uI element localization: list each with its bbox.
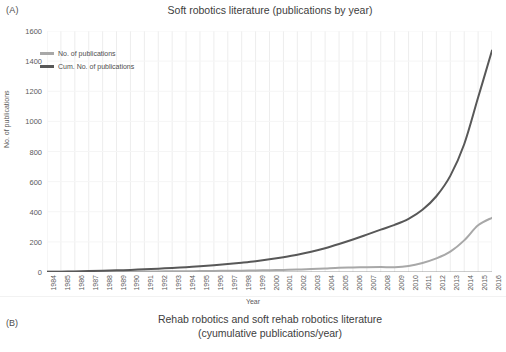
x-tick-label: 2013 <box>453 275 460 291</box>
y-tick-label: 1600 <box>2 27 42 36</box>
x-tick-label: 2010 <box>412 275 419 291</box>
x-tick-label: 1996 <box>217 275 224 291</box>
legend-swatch-cumulative <box>40 65 54 68</box>
x-tick-label: 1991 <box>147 275 154 291</box>
y-tick-label: 1200 <box>2 87 42 96</box>
x-tick-label: 2003 <box>314 275 321 291</box>
x-tick-label: 1985 <box>64 275 71 291</box>
x-tick-label: 1998 <box>245 275 252 291</box>
x-tick-label: 2008 <box>384 275 391 291</box>
x-tick-label: 2015 <box>481 275 488 291</box>
x-tick-label: 2011 <box>425 275 432 290</box>
x-tick-label: 1992 <box>161 275 168 291</box>
x-tick-label: 2016 <box>495 275 502 291</box>
x-tick-label: 1984 <box>50 275 57 291</box>
x-tick-label: 2005 <box>342 275 349 291</box>
x-tick-label: 1993 <box>175 275 182 291</box>
y-tick-label: 1400 <box>2 57 42 66</box>
x-tick-label: 2000 <box>273 275 280 291</box>
x-tick-label: 1990 <box>133 275 140 291</box>
chart-title: Soft robotics literature (publications b… <box>60 4 480 16</box>
x-tick-label: 1994 <box>189 275 196 291</box>
legend-item-cumulative: Cum. No. of publications <box>40 61 134 72</box>
y-tick-label: 0 <box>2 268 42 277</box>
x-tick-label: 1999 <box>259 275 266 291</box>
figure-container: (A) Soft robotics literature (publicatio… <box>0 0 506 352</box>
chart-legend: No. of publications Cum. No. of publicat… <box>40 48 134 74</box>
x-tick-label: 1986 <box>78 275 85 291</box>
x-tick-label: 2009 <box>398 275 405 291</box>
legend-swatch-annual <box>40 52 54 55</box>
legend-item-annual: No. of publications <box>40 48 134 59</box>
x-tick-label: 2014 <box>467 275 474 291</box>
x-tick-label: 2006 <box>356 275 363 291</box>
x-tick-label: 2012 <box>439 275 446 291</box>
x-tick-label: 1997 <box>231 275 238 291</box>
panel-b-title: Rehab robotics and soft rehab robotics l… <box>80 312 460 340</box>
panel-b-title-line1: Rehab robotics and soft rehab robotics l… <box>80 312 460 326</box>
y-tick-label: 1000 <box>2 117 42 126</box>
panel-a-label: (A) <box>6 5 19 15</box>
x-tick-label: 2007 <box>370 275 377 291</box>
x-tick-label: 1987 <box>92 275 99 291</box>
legend-label-annual: No. of publications <box>58 50 116 57</box>
x-tick-label: 1989 <box>120 275 127 291</box>
y-tick-label: 200 <box>2 237 42 246</box>
y-tick-label: 800 <box>2 147 42 156</box>
x-axis-label: Year <box>0 298 506 305</box>
panel-b-label: (B) <box>6 318 18 328</box>
x-tick-label: 1995 <box>203 275 210 291</box>
x-tick-label: 1988 <box>106 275 113 291</box>
legend-label-cumulative: Cum. No. of publications <box>58 63 134 70</box>
x-tick-label: 2004 <box>328 275 335 291</box>
x-tick-label: 2002 <box>300 275 307 291</box>
x-tick-label: 2001 <box>286 275 293 291</box>
y-tick-label: 600 <box>2 177 42 186</box>
y-tick-label: 400 <box>2 207 42 216</box>
panel-divider <box>0 296 506 297</box>
panel-b-title-line2: (cyumulative publications/year) <box>80 326 460 340</box>
